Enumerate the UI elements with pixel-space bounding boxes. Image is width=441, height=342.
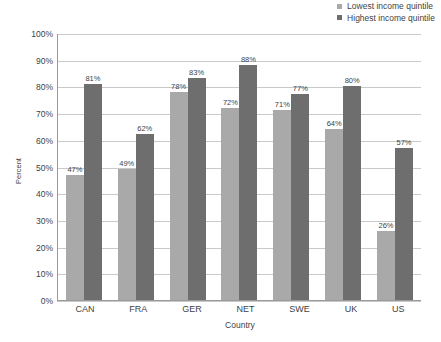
bar-value-label: 78%	[171, 82, 186, 91]
y-axis-tick-label: 60%	[36, 136, 53, 146]
bar-value-label: 47%	[67, 165, 82, 174]
bar-slot: 62%	[136, 34, 154, 300]
bar-slot: 71%	[273, 34, 291, 300]
bar-slot: 80%	[343, 34, 361, 300]
bar-group: 49%62%	[118, 34, 154, 300]
bar-value-label: 77%	[293, 84, 308, 93]
bar-value-label: 57%	[396, 138, 411, 147]
bar-group: 72%88%	[221, 34, 257, 300]
bar[interactable]: 88%	[239, 65, 257, 300]
bar[interactable]: 64%	[325, 129, 343, 300]
bar-slot: 72%	[221, 34, 239, 300]
bar[interactable]: 83%	[188, 78, 206, 300]
y-axis-tick-label: 50%	[36, 163, 53, 173]
bar[interactable]: 57%	[395, 148, 413, 300]
bar-slot: 88%	[239, 34, 257, 300]
y-axis-tick-labels: 100%90%80%70%60%50%40%30%20%10%0%	[0, 34, 53, 301]
legend-swatch-icon	[337, 15, 342, 20]
bar-value-label: 49%	[119, 159, 134, 168]
bar-slot: 47%	[66, 34, 84, 300]
bar-value-label: 81%	[85, 74, 100, 83]
y-axis-tick-label: 10%	[36, 269, 53, 279]
bar-value-label: 62%	[137, 124, 152, 133]
chart-legend: Lowest income quintile Highest income qu…	[337, 2, 435, 22]
bar-group: 71%77%	[273, 34, 309, 300]
bar-slot: 83%	[188, 34, 206, 300]
bar[interactable]: 81%	[84, 84, 102, 300]
legend-label: Highest income quintile	[347, 14, 435, 23]
bar-slot: 64%	[325, 34, 343, 300]
bar[interactable]: 47%	[66, 175, 84, 300]
bar-slot: 77%	[291, 34, 309, 300]
bar-group: 47%81%	[66, 34, 102, 300]
bar-group: 78%83%	[170, 34, 206, 300]
bar-group: 26%57%	[377, 34, 413, 300]
bar[interactable]: 80%	[343, 86, 361, 300]
bar-slot: 78%	[170, 34, 188, 300]
y-axis-tick-label: 90%	[36, 56, 53, 66]
bar[interactable]: 71%	[273, 110, 291, 300]
y-axis-tick-label: 20%	[36, 243, 53, 253]
x-axis-tick-label: SWE	[289, 304, 310, 314]
y-axis-tick-label: 70%	[36, 109, 53, 119]
y-axis-tick-label: 0%	[41, 296, 53, 306]
x-axis-tick-label: UK	[345, 304, 358, 314]
bar[interactable]: 72%	[221, 108, 239, 300]
x-axis-tick-label: NET	[236, 304, 254, 314]
legend-item-lowest-income-quintile: Lowest income quintile	[337, 2, 433, 11]
bar-value-label: 72%	[223, 98, 238, 107]
legend-item-highest-income-quintile: Highest income quintile	[337, 14, 435, 23]
x-axis-tick-label: FRA	[129, 304, 147, 314]
bar[interactable]: 62%	[136, 134, 154, 300]
bar-slot: 57%	[395, 34, 413, 300]
x-axis-tick-labels: CANFRAGERNETSWEUKUS	[58, 304, 422, 314]
legend-label: Lowest income quintile	[347, 2, 433, 11]
legend-swatch-icon	[337, 4, 342, 9]
bar-value-label: 88%	[241, 55, 256, 64]
y-axis-tick-label: 40%	[36, 189, 53, 199]
y-axis-tick-label: 100%	[31, 29, 53, 39]
x-axis-line	[57, 300, 421, 301]
y-axis-tick-label: 80%	[36, 82, 53, 92]
plot-area: 47%81%49%62%78%83%72%88%71%77%64%80%26%5…	[57, 34, 421, 301]
bar-value-label: 80%	[345, 76, 360, 85]
bar[interactable]: 49%	[118, 169, 136, 300]
bar-groups: 47%81%49%62%78%83%72%88%71%77%64%80%26%5…	[58, 34, 421, 300]
bar-slot: 81%	[84, 34, 102, 300]
bar-value-label: 64%	[327, 119, 342, 128]
x-axis-tick-label: CAN	[75, 304, 94, 314]
bar-chart: Lowest income quintile Highest income qu…	[0, 0, 441, 342]
bar-value-label: 26%	[378, 221, 393, 230]
x-axis-title: Country	[58, 320, 422, 330]
bar-group: 64%80%	[325, 34, 361, 300]
y-axis-tick-label: 30%	[36, 216, 53, 226]
bar-value-label: 71%	[275, 100, 290, 109]
bar-value-label: 83%	[189, 68, 204, 77]
x-axis-tick-label: GER	[182, 304, 202, 314]
bar[interactable]: 78%	[170, 92, 188, 300]
bar[interactable]: 77%	[291, 94, 309, 300]
bar-slot: 26%	[377, 34, 395, 300]
x-axis-tick-label: US	[392, 304, 405, 314]
bar[interactable]: 26%	[377, 231, 395, 300]
bar-slot: 49%	[118, 34, 136, 300]
grid-line	[57, 301, 421, 302]
